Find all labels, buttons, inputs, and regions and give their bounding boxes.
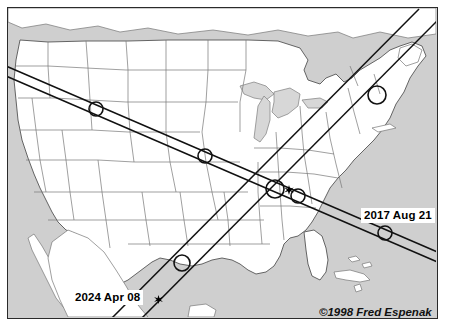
eclipse-label-2017: 2017 Aug 21 <box>361 208 435 223</box>
map-canvas <box>8 8 436 317</box>
eclipse-path-map-figure: 2017 Aug 21 2024 Apr 08 ©1998 Fred Espen… <box>0 0 449 328</box>
eclipse-label-2024: 2024 Apr 08 <box>72 290 143 305</box>
map-frame: 2017 Aug 21 2024 Apr 08 ©1998 Fred Espen… <box>7 7 438 319</box>
copyright-credit: ©1998 Fred Espenak <box>319 306 432 319</box>
star-marker-icon <box>153 294 164 305</box>
